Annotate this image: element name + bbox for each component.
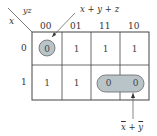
cell-1-00: 1 xyxy=(32,66,62,100)
col-header: 01 xyxy=(70,21,81,31)
col-header: 00 xyxy=(40,21,51,31)
group-label-bottom: x + y xyxy=(121,122,143,132)
row-var-label: x xyxy=(9,16,14,26)
cell-0-10: 1 xyxy=(120,32,149,65)
col-header: 11 xyxy=(99,21,110,31)
col-var-label: yz xyxy=(23,6,32,16)
cell-1-10: 0 xyxy=(121,66,150,100)
cell-0-11: 1 xyxy=(91,32,120,65)
group-label-top: x + y + z xyxy=(80,4,119,14)
cell-0-01: 1 xyxy=(62,32,91,65)
cell-1-01: 1 xyxy=(62,66,91,100)
row-header: 1 xyxy=(21,77,27,87)
cell-0-00: 0 xyxy=(32,32,62,65)
row-header: 0 xyxy=(21,43,27,53)
cell-1-11: 0 xyxy=(94,66,123,100)
col-header: 10 xyxy=(128,21,139,31)
